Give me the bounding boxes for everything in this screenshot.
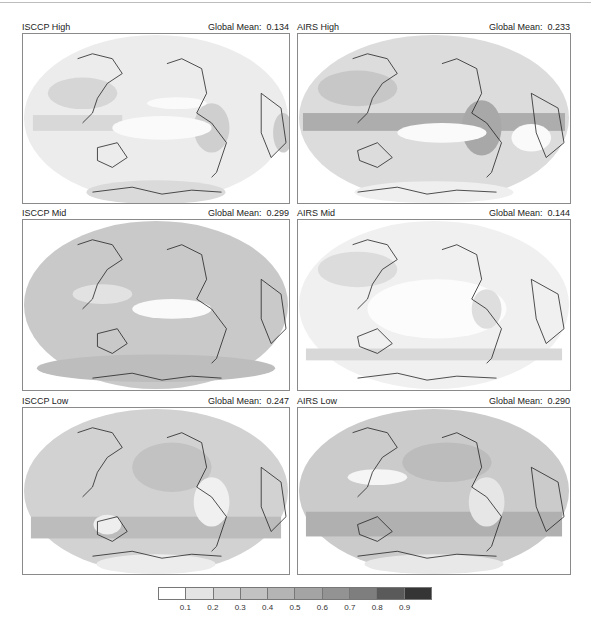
panel-title-airs-mid: AIRS Mid [297, 208, 335, 218]
map-airs-mid [297, 219, 571, 391]
colorbar-tick-label: 0.2 [207, 603, 218, 612]
colorbar-tick-label: 0.3 [235, 603, 246, 612]
global-mean-isccp-low: Global Mean: 0.247 [150, 396, 289, 406]
colorbar-swatch [295, 588, 322, 599]
colorbar-tick-label: 0.4 [262, 603, 273, 612]
panel-title-airs-low: AIRS Low [297, 396, 337, 406]
colorbar-swatch [186, 588, 213, 599]
colorbar-tick-label: 0.8 [372, 603, 383, 612]
map-isccp-high [22, 33, 290, 204]
panel-title-airs-high: AIRS High [297, 22, 339, 32]
colorbar-swatch [214, 588, 241, 599]
map-isccp-mid [22, 219, 290, 391]
global-mean-airs-low: Global Mean: 0.290 [430, 396, 570, 406]
panel-title-isccp-mid: ISCCP Mid [22, 208, 66, 218]
colorbar-swatch [377, 588, 404, 599]
map-airs-low [297, 407, 571, 575]
colorbar-tick-label: 0.9 [399, 603, 410, 612]
colorbar-swatch [350, 588, 377, 599]
colorbar [158, 587, 432, 600]
colorbar-swatch [268, 588, 295, 599]
colorbar-tick-label: 0.7 [344, 603, 355, 612]
colorbar-swatch [405, 588, 431, 599]
top-divider [0, 2, 591, 3]
map-airs-high [297, 33, 571, 204]
colorbar-swatch [323, 588, 350, 599]
global-mean-airs-mid: Global Mean: 0.144 [430, 208, 570, 218]
global-mean-isccp-mid: Global Mean: 0.299 [150, 208, 289, 218]
colorbar-tick-label: 0.1 [180, 603, 191, 612]
global-mean-isccp-high: Global Mean: 0.134 [150, 22, 289, 32]
map-isccp-low [22, 407, 290, 575]
global-mean-airs-high: Global Mean: 0.233 [430, 22, 570, 32]
colorbar-swatch [241, 588, 268, 599]
colorbar-swatch [159, 588, 186, 599]
colorbar-tick-label: 0.5 [289, 603, 300, 612]
panel-title-isccp-high: ISCCP High [22, 22, 70, 32]
panel-title-isccp-low: ISCCP Low [22, 396, 68, 406]
colorbar-tick-label: 0.6 [317, 603, 328, 612]
